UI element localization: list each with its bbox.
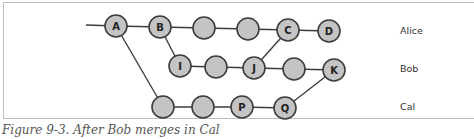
commit-circle bbox=[237, 18, 259, 40]
branch-label-alice: Alice bbox=[400, 25, 423, 36]
commit-circle bbox=[192, 96, 214, 118]
commit-circle bbox=[152, 96, 174, 118]
commit-node bbox=[193, 17, 215, 39]
commit-circle bbox=[193, 17, 215, 39]
commit-circle bbox=[205, 56, 227, 78]
commit-node-b: B bbox=[149, 16, 171, 38]
edge-A-c1 bbox=[116, 26, 163, 107]
commit-label: C bbox=[284, 25, 291, 36]
commit-label: B bbox=[156, 22, 164, 33]
commit-node bbox=[205, 56, 227, 78]
commit-label: P bbox=[238, 102, 245, 113]
commit-label: I bbox=[178, 61, 182, 72]
commit-node bbox=[283, 58, 305, 80]
commit-label: D bbox=[325, 26, 333, 37]
commit-node bbox=[192, 96, 214, 118]
commit-label: A bbox=[112, 21, 120, 32]
commit-label: K bbox=[330, 65, 339, 76]
commit-label: J bbox=[251, 63, 256, 74]
branch-label-cal: Cal bbox=[400, 101, 415, 112]
commit-node-i: I bbox=[169, 55, 191, 77]
figure-caption: Figure 9-3. After Bob merges in Cal bbox=[2, 123, 220, 137]
commit-node-p: P bbox=[231, 96, 253, 118]
commit-node bbox=[237, 18, 259, 40]
commit-circle bbox=[283, 58, 305, 80]
commit-node-k: K bbox=[323, 59, 345, 81]
commit-node-j: J bbox=[243, 57, 265, 79]
branch-label-bob: Bob bbox=[400, 63, 418, 74]
commit-node-d: D bbox=[318, 20, 340, 42]
commit-label: Q bbox=[281, 103, 290, 114]
commit-node-c: C bbox=[277, 19, 299, 41]
commit-node bbox=[152, 96, 174, 118]
commit-node-a: A bbox=[105, 15, 127, 37]
commit-node-q: Q bbox=[274, 97, 296, 119]
